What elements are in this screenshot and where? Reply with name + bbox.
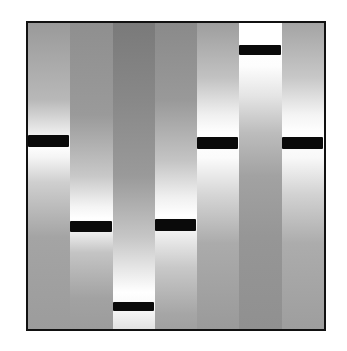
dna-band-5 xyxy=(197,137,238,149)
gel-lane-2 xyxy=(70,23,113,329)
gel-frame xyxy=(26,21,326,331)
gel-lane-7 xyxy=(282,23,325,329)
dna-band-1 xyxy=(28,135,69,147)
gel-lane-6 xyxy=(239,23,282,329)
dna-band-2 xyxy=(70,221,111,232)
gel-lane-3 xyxy=(113,23,156,329)
dna-band-4 xyxy=(155,219,196,231)
dna-band-7 xyxy=(282,137,323,149)
gel-lane-1 xyxy=(28,23,71,329)
gel-lane-4 xyxy=(155,23,198,329)
dna-band-6 xyxy=(239,45,280,55)
dna-band-3 xyxy=(113,302,154,311)
gel-lane-5 xyxy=(197,23,240,329)
